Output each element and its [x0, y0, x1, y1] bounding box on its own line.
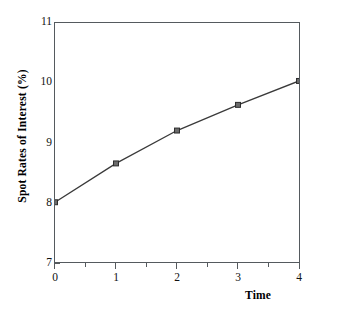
y-axis-title: Spot Rates of Interest (%) [16, 31, 28, 241]
x-axis-tick-label: 1 [101, 272, 131, 284]
x-axis-major-tick [115, 263, 116, 269]
data-point-marker [114, 161, 119, 166]
data-point-marker [236, 102, 241, 107]
data-point-marker [175, 128, 180, 133]
x-axis-major-tick [176, 263, 177, 269]
chart-figure: 11 10 9 8 7 0 1 2 3 4 1st year 2nd year … [0, 0, 337, 317]
chart-svg [55, 23, 299, 262]
x-axis-tick-label: 3 [223, 272, 253, 284]
x-axis-major-tick [299, 263, 300, 269]
data-point-marker [297, 78, 299, 83]
data-point-marker [55, 200, 57, 205]
x-axis-minor-tick [268, 263, 269, 267]
x-axis-tick-label: 2 [162, 272, 192, 284]
y-axis-tick-label: 11 [12, 16, 52, 28]
x-axis-tick-label: 4 [284, 272, 314, 284]
x-axis-major-tick [237, 263, 238, 269]
x-axis-title: Time [245, 289, 271, 301]
x-axis-minor-tick [146, 263, 147, 267]
plot-area [54, 22, 300, 263]
data-series-line [55, 81, 299, 202]
x-axis-minor-tick [85, 263, 86, 267]
x-axis-major-tick [54, 263, 55, 269]
x-axis-minor-tick [207, 263, 208, 267]
x-axis-tick-label: 0 [40, 272, 70, 284]
y-axis-tick-label: 7 [12, 257, 52, 269]
data-point-markers [55, 78, 299, 204]
